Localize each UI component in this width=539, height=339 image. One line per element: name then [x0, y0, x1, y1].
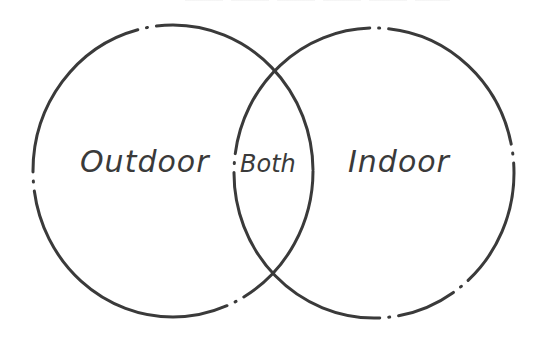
- indoor-label: Indoor: [348, 147, 450, 177]
- outdoor-label: Outdoor: [80, 147, 209, 177]
- both-label: Both: [240, 152, 296, 176]
